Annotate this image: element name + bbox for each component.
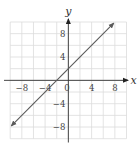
y-tick-label: 4 — [60, 52, 65, 62]
x-tick-label: 0 — [64, 83, 69, 93]
x-axis-label: x — [131, 74, 138, 87]
x-tick-label: −8 — [16, 83, 29, 93]
axes: x y — [4, 5, 138, 143]
x-tick-label: 8 — [112, 83, 117, 93]
y-tick-label: −4 — [53, 99, 66, 109]
x-tick-label: 4 — [89, 83, 94, 93]
y-tick-label: −8 — [53, 122, 66, 132]
coordinate-plane: x y −8−404884−4−8 — [0, 0, 139, 144]
y-tick-label: 8 — [60, 29, 65, 39]
y-axis-label: y — [64, 5, 72, 18]
